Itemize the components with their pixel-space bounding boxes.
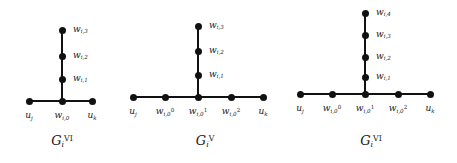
node-w-i2 (362, 54, 369, 61)
panel-caption-2: GiV (196, 134, 215, 149)
node-w-i0-sup1 (362, 91, 369, 98)
label-w-i0-sup1: wi,01 (189, 107, 207, 117)
node-u-k (427, 91, 434, 98)
label-w-i3: wi,3 (376, 30, 391, 40)
node-w-i2 (195, 48, 202, 55)
label-w-i2: wi,2 (376, 52, 391, 62)
label-w-i4: wi,4 (376, 8, 391, 18)
node-w-i1 (362, 74, 369, 81)
node-w-i0-sup1 (195, 94, 202, 101)
label-w-i3: wi,3 (209, 21, 224, 31)
chain-edge-2 (197, 26, 199, 97)
label-w-i0-sup1: wi,01 (356, 104, 374, 114)
panel-caption-3: GiVI (360, 134, 382, 149)
node-w-i0-sup2 (395, 91, 402, 98)
label-u-k: uk (425, 104, 434, 114)
label-w-i0-sup2: wi,02 (222, 107, 240, 117)
node-w-i3 (195, 23, 202, 30)
label-w-i0-sup2: wi,02 (389, 104, 407, 114)
node-u-k (260, 94, 267, 101)
graph-figure: uj wi,0 uk wi,1 wi,2 wi,3 GiVI (0, 0, 457, 163)
node-w-i3 (362, 32, 369, 39)
label-w-i0-sup0: wi,00 (323, 104, 341, 114)
panel-graph-3: uj wi,00 wi,01 wi,02 uk wi,1 wi,2 wi,3 w… (0, 0, 160, 163)
node-u-j (297, 91, 304, 98)
label-u-k: uk (258, 107, 267, 117)
label-w-i1: wi,1 (376, 72, 391, 82)
label-w-i1: wi,1 (209, 70, 224, 80)
node-w-i0-sup2 (228, 94, 235, 101)
node-w-i1 (195, 72, 202, 79)
node-w-i0-sup0 (329, 91, 336, 98)
label-w-i2: wi,2 (209, 46, 224, 56)
node-w-i4 (362, 10, 369, 17)
node-w-i0-sup0 (162, 94, 169, 101)
label-u-j: uj (296, 104, 304, 114)
